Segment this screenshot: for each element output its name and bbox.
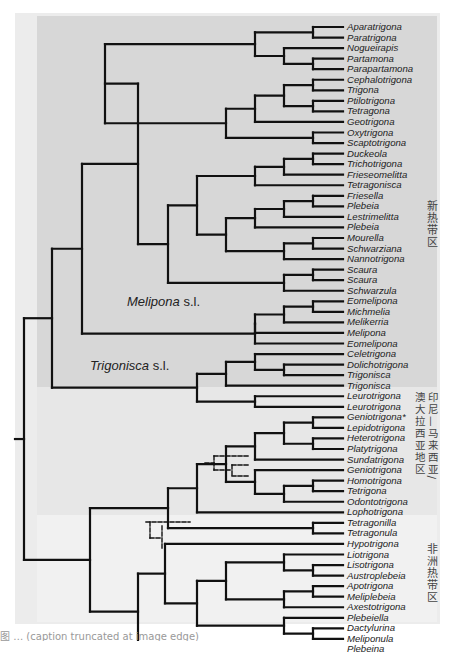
taxon-label: Tetrigona — [347, 486, 387, 496]
taxon-label: Scaptotrigona — [347, 138, 406, 148]
taxon-label: Plebeia — [347, 222, 379, 232]
taxon-label: Trichotrigona — [347, 159, 402, 169]
taxon-label: Plebeia — [347, 201, 379, 211]
taxon-label: Mourella — [347, 233, 384, 243]
clade-suffix: s.l. — [180, 294, 200, 309]
taxon-label: Axestotrigona — [347, 602, 406, 612]
taxon-label: Sundatrigona — [347, 455, 404, 465]
taxon-label: Tetragona — [347, 106, 390, 116]
taxon-label: Heterotrigona — [347, 433, 405, 443]
clade-label-trigonisca: Trigonisca s.l. — [90, 358, 169, 373]
taxon-label: Nogueirapis — [347, 43, 398, 53]
taxon-label: Meliplebeia — [347, 592, 396, 602]
region-label-indomalayan: 印尼—马来西亚/澳大拉西亚地区 — [412, 392, 438, 484]
taxon-label: Paratrigona — [347, 33, 397, 43]
clade-label-melipona: Melipona s.l. — [127, 294, 200, 309]
clade-suffix: s.l. — [149, 358, 169, 373]
taxon-label: Friesella — [347, 191, 383, 201]
taxon-label: Tetragonilla — [347, 518, 396, 528]
taxon-label: Leurotrigona — [347, 391, 401, 401]
taxon-label: Apotrigona — [347, 581, 393, 591]
taxon-label: Lophotrigona — [347, 507, 403, 517]
taxon-label: Lepidotrigona — [347, 423, 405, 433]
taxon-label: Trigonisca — [347, 381, 391, 391]
taxon-label: Lestrimelitta — [347, 212, 399, 222]
taxon-label: Michmelia — [347, 307, 390, 317]
taxon-label: Scaura — [347, 265, 377, 275]
taxon-label: Trigonisca — [347, 370, 391, 380]
taxon-label: Scaura — [347, 275, 377, 285]
taxon-label: Dolichotrigona — [347, 360, 408, 370]
taxon-label: Eomelipona — [347, 296, 398, 306]
taxon-label: Cephalotrigona — [347, 75, 412, 85]
taxon-label: Platytrigona — [347, 444, 398, 454]
taxon-label: Celetrigona — [347, 349, 396, 359]
taxon-label: Leurotrigona — [347, 402, 401, 412]
figure-caption: 图 … (caption truncated at image edge) — [0, 628, 455, 641]
taxon-label: Plebeina — [347, 644, 384, 654]
taxon-label: Partamona — [347, 54, 394, 64]
taxon-label: Nannotrigona — [347, 254, 405, 264]
taxon-label: Aparatrigona — [347, 22, 402, 32]
clade-genus: Trigonisca — [90, 358, 149, 373]
clade-genus: Melipona — [127, 294, 180, 309]
taxon-label: Duckeola — [347, 149, 387, 159]
taxon-label: Geotrigona — [347, 117, 394, 127]
taxon-label: Schwarziana — [347, 244, 402, 254]
taxon-label: Tetragonisca — [347, 180, 402, 190]
taxon-label: Melikerria — [347, 317, 389, 327]
taxon-label: Geniotrigona — [347, 465, 402, 475]
taxon-label: Frieseomelitta — [347, 170, 407, 180]
taxon-label: Ptilotrigona — [347, 96, 395, 106]
taxon-label: Homotrigona — [347, 476, 402, 486]
taxon-label: Liotrigona — [347, 550, 389, 560]
taxon-label: Trigona — [347, 85, 379, 95]
taxon-label: Melipona — [347, 328, 386, 338]
taxon-label: Plebeiella — [347, 613, 389, 623]
region-label-afrotropical: 非洲热带区 — [423, 543, 439, 603]
taxon-label: Odontotrigona — [347, 497, 408, 507]
taxon-label: Eomelipona — [347, 339, 398, 349]
taxon-label: Schwarzula — [347, 286, 397, 296]
taxon-label: Parapartamona — [347, 64, 413, 74]
taxon-label: Austroplebeia — [347, 571, 406, 581]
taxon-label: Lisotrigona — [347, 560, 394, 570]
region-label-neotropical: 新热带区 — [423, 200, 439, 248]
taxon-label: Oxytrigona — [347, 128, 393, 138]
taxon-label: Tetragonula — [347, 528, 397, 538]
taxon-label: Geniotrigona* — [347, 412, 406, 422]
taxon-label: Hypotrigona — [347, 539, 399, 549]
